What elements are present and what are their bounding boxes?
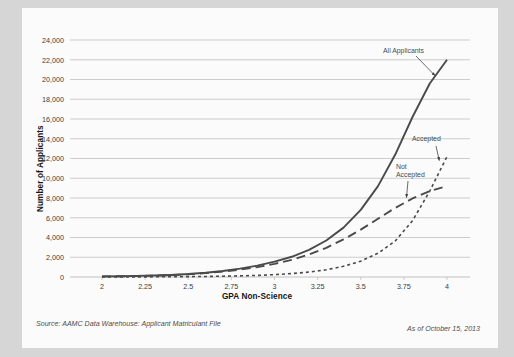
- y-tick-label: 8,000: [18, 194, 64, 203]
- y-tick-label: 22,000: [18, 56, 64, 65]
- y-tick-label: 16,000: [18, 115, 64, 124]
- x-tick-label: 3: [255, 282, 295, 291]
- y-tick-label: 12,000: [18, 154, 64, 163]
- x-tick-label: 2: [82, 282, 122, 291]
- x-tick-label: 4: [427, 282, 467, 291]
- footer-date: As of October 15, 2013: [407, 325, 480, 333]
- x-axis-ticks: [102, 277, 447, 280]
- annotation-not-accepted: Not Accepted: [396, 163, 425, 178]
- annotation-all-applicants: All Applicants: [383, 47, 424, 55]
- y-tick-label: 6,000: [18, 214, 64, 223]
- x-tick-label: 3.75: [384, 282, 424, 291]
- y-tick-label: 14,000: [18, 135, 64, 144]
- x-tick-label: 2.75: [211, 282, 251, 291]
- y-tick-label: 10,000: [18, 174, 64, 183]
- curve-not-accepted: [102, 186, 447, 276]
- x-tick-label: 3.5: [341, 282, 381, 291]
- y-tick-label: 24,000: [18, 36, 64, 45]
- y-tick-label: 20,000: [18, 75, 64, 84]
- chart-plot-area: [0, 0, 514, 357]
- x-tick-label: 3.25: [298, 282, 338, 291]
- y-tick-label: 18,000: [18, 95, 64, 104]
- annotation-not-accepted-line1: Not: [396, 163, 407, 170]
- chart-figure: Number of Applicants GPA Non-Science 02,…: [0, 0, 514, 357]
- y-tick-label: 2,000: [18, 253, 64, 262]
- x-tick-label: 2.5: [168, 282, 208, 291]
- y-tick-label: 0: [18, 273, 64, 282]
- annotation-leader-line: [406, 181, 408, 198]
- annotation-accepted: Accepted: [412, 135, 441, 143]
- footer-source: Source: AAMC Data Warehouse: Applicant M…: [36, 320, 221, 328]
- gridlines: [70, 40, 470, 277]
- x-axis-title: GPA Non-Science: [0, 292, 514, 301]
- annotation-leader-line: [416, 56, 435, 76]
- y-tick-label: 4,000: [18, 233, 64, 242]
- annotation-not-accepted-line2: Accepted: [396, 171, 425, 178]
- x-tick-label: 2.25: [125, 282, 165, 291]
